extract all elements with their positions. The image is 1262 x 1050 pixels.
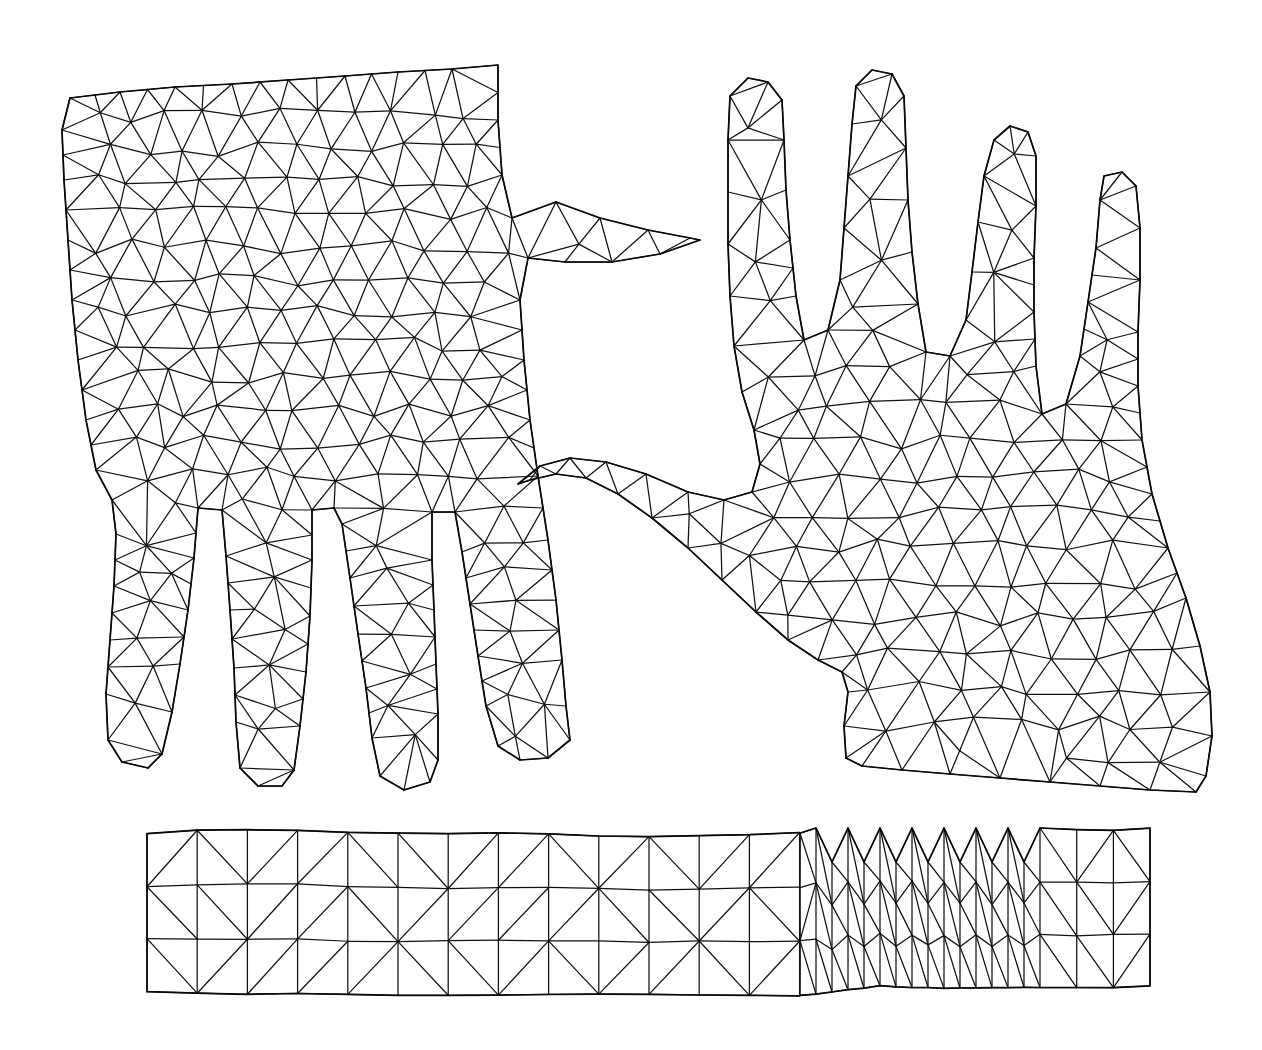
mesh-edge xyxy=(1101,440,1142,441)
mesh-edge xyxy=(212,382,249,383)
mesh-edge xyxy=(1077,882,1114,883)
mesh-edge xyxy=(498,940,548,941)
mesh-edge xyxy=(549,887,599,888)
mesh-edge xyxy=(870,199,908,200)
mesh-edge xyxy=(378,474,418,475)
mesh-edge xyxy=(957,476,993,477)
canvas-background xyxy=(0,0,1262,1050)
figure-root xyxy=(0,0,1262,1050)
mesh-edge xyxy=(424,251,467,252)
mesh-edge xyxy=(448,888,498,889)
mesh-edge xyxy=(812,518,848,519)
mesh-edge xyxy=(699,941,749,942)
mesh-edge xyxy=(749,887,799,888)
mesh-edge xyxy=(334,339,376,340)
mesh-diagram xyxy=(0,0,1262,1050)
mesh-edge xyxy=(848,518,899,519)
mesh-edge xyxy=(260,343,297,344)
mesh-edge xyxy=(1130,649,1172,650)
